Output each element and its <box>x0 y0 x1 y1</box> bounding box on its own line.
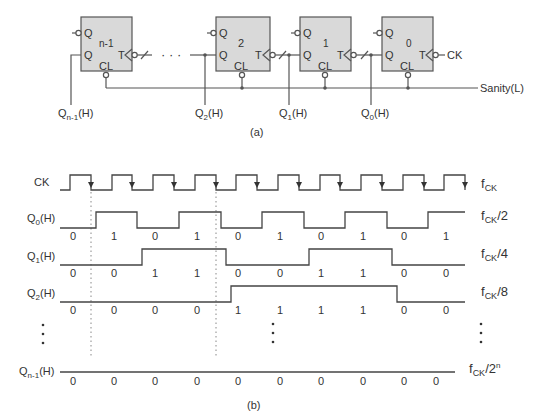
t-pin-label: T <box>337 49 344 61</box>
inverting-bubble-icon <box>295 30 300 35</box>
clock-signal-label: CK <box>34 176 50 188</box>
svg-text:0: 0 <box>277 375 283 387</box>
svg-text:0: 0 <box>277 267 283 279</box>
output-label-qn-1: Qn-1(H) <box>58 107 93 122</box>
signal-label-q0: Q0(H) <box>27 212 55 227</box>
q0-values: 0 1 0 1 0 1 0 1 0 1 <box>70 230 449 242</box>
q-pin-label: Q <box>84 49 93 61</box>
q0-waveform <box>60 212 465 228</box>
svg-text:0: 0 <box>152 304 158 316</box>
inverting-bubble-icon <box>132 52 137 57</box>
output-label-q1: Q1(H) <box>279 107 307 122</box>
caption-b: (b) <box>247 399 260 411</box>
flipflop-0: Q Q 0 T CL CK <box>369 17 463 105</box>
svg-text:1: 1 <box>235 304 241 316</box>
clear-pin-label: CL <box>99 60 113 72</box>
schematic: Sanity(L) Q Q n-1 T CL · · · Q <box>58 17 524 138</box>
svg-text:1: 1 <box>360 304 366 316</box>
svg-text:0: 0 <box>443 267 449 279</box>
svg-text:0: 0 <box>401 375 407 387</box>
svg-text:0: 0 <box>70 304 76 316</box>
q1-frequency-label: fCK/4 <box>481 246 508 263</box>
clock-waveform <box>60 175 465 190</box>
svg-text:0: 0 <box>70 375 76 387</box>
flipflop-2: Q Q 2 T CL <box>190 17 300 105</box>
q-bar-pin-label: Q <box>84 27 93 39</box>
q2-values: 0 0 0 0 1 1 1 1 0 0 <box>70 304 449 316</box>
svg-text:0: 0 <box>152 375 158 387</box>
inverting-bubble-icon <box>211 30 216 35</box>
svg-text:1: 1 <box>318 267 324 279</box>
vertical-ellipsis <box>42 323 483 345</box>
svg-text:1: 1 <box>111 230 117 242</box>
svg-text:0: 0 <box>318 375 324 387</box>
output-label-q2: Q2(H) <box>195 107 223 122</box>
inverting-bubble-icon <box>351 52 356 57</box>
signal-label-q1: Q1(H) <box>27 250 55 265</box>
q0-frequency-label: fCK/2 <box>481 208 508 225</box>
svg-text:0: 0 <box>194 304 200 316</box>
q-pin-label: Q <box>303 49 312 61</box>
svg-text:0: 0 <box>235 375 241 387</box>
flipflop-index-label: 2 <box>238 37 244 49</box>
svg-text:0: 0 <box>235 267 241 279</box>
clear-pin-label: CL <box>400 60 414 72</box>
q-bar-pin-label: Q <box>219 27 228 39</box>
flipflop-index-label: 0 <box>406 38 412 49</box>
inverting-bubble-icon <box>239 72 244 77</box>
svg-text:0: 0 <box>111 304 117 316</box>
svg-text:1: 1 <box>194 267 200 279</box>
t-pin-label: T <box>118 49 125 61</box>
svg-text:0: 0 <box>70 267 76 279</box>
inverting-bubble-icon <box>76 30 81 35</box>
svg-text:1: 1 <box>152 267 158 279</box>
signal-label-qn-1: Qn-1(H) <box>19 365 54 380</box>
q1-waveform <box>60 249 465 265</box>
clock-input-label: CK <box>447 49 463 61</box>
svg-text:0: 0 <box>401 267 407 279</box>
svg-text:1: 1 <box>277 304 283 316</box>
inverting-bubble-icon <box>322 72 327 77</box>
svg-text:0: 0 <box>152 230 158 242</box>
clock-frequency-label: fCK <box>481 176 497 193</box>
q2-waveform <box>60 286 465 302</box>
sanity-label: Sanity(L) <box>480 82 524 94</box>
svg-text:1: 1 <box>277 230 283 242</box>
q1-values: 0 0 1 1 0 0 1 1 0 0 <box>70 267 449 279</box>
svg-text:0: 0 <box>401 304 407 316</box>
t-pin-label: T <box>419 49 426 61</box>
svg-text:1: 1 <box>360 267 366 279</box>
inverting-bubble-icon <box>405 72 410 77</box>
svg-text:1: 1 <box>194 230 200 242</box>
output-labels: Qn-1(H) Q2(H) Q1(H) Q0(H) <box>58 107 389 122</box>
flipflop-1: Q Q 1 T CL <box>287 17 382 105</box>
caption-a: (a) <box>250 126 263 138</box>
inverting-bubble-icon <box>433 52 438 57</box>
q-pin-label: Q <box>385 49 394 61</box>
flipflop-index-label: 1 <box>323 38 329 49</box>
svg-text:0: 0 <box>111 267 117 279</box>
svg-text:0: 0 <box>443 304 449 316</box>
svg-text:1: 1 <box>360 230 366 242</box>
flipflop-n-1: Q Q n-1 T CL <box>71 17 152 105</box>
svg-text:0: 0 <box>401 230 407 242</box>
t-pin-label: T <box>255 49 262 61</box>
inverting-bubble-icon <box>377 30 382 35</box>
ellipsis: · · · <box>161 47 181 62</box>
q-bar-pin-label: Q <box>385 27 394 39</box>
signal-label-q2: Q2(H) <box>27 287 55 302</box>
svg-text:0: 0 <box>235 230 241 242</box>
qn-1-values: 0 0 0 0 0 0 0 0 0 0 <box>70 375 439 387</box>
clear-pin-label: CL <box>234 60 248 72</box>
flipflop-index-label: n-1 <box>99 38 114 49</box>
inverting-bubble-icon <box>103 72 108 77</box>
inverting-bubble-icon <box>270 52 275 57</box>
output-label-q0: Q0(H) <box>361 107 389 122</box>
svg-text:1: 1 <box>443 230 449 242</box>
ripple-counter-figure: Sanity(L) Q Q n-1 T CL · · · Q <box>0 0 534 412</box>
clear-pin-label: CL <box>318 60 332 72</box>
q-pin-label: Q <box>219 49 228 61</box>
svg-text:0: 0 <box>318 230 324 242</box>
svg-text:0: 0 <box>70 230 76 242</box>
qn-1-frequency-label: fCK/2n <box>469 361 500 378</box>
